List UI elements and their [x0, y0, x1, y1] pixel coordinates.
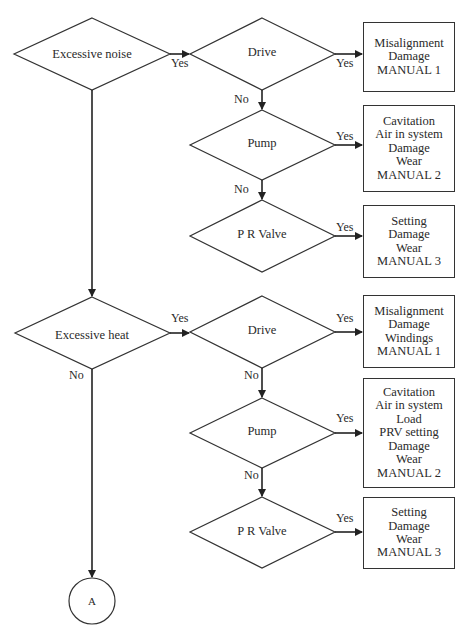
outcome-line: Damage [388, 318, 430, 331]
outcome-line: MANUAL 2 [377, 467, 441, 480]
edge-label-no: No [234, 93, 249, 106]
outcome-line: Load [396, 413, 422, 426]
edge-label-yes: Yes [336, 57, 353, 70]
edge-label-yes: Yes [336, 512, 353, 525]
edge-label-no: No [69, 369, 84, 382]
outcome-line: Damage [388, 440, 430, 453]
decision-label-drive-2: Drive [248, 323, 276, 338]
decision-label-pump-2: Pump [247, 424, 276, 439]
outcome-box-2: Cavitation Air in system Damage Wear MAN… [363, 105, 455, 192]
outcome-line: Cavitation [383, 386, 435, 399]
edge-label-yes: Yes [171, 57, 188, 70]
edge-label-no: No [244, 369, 259, 382]
edge-label-no: No [234, 183, 249, 196]
outcome-line: MANUAL 1 [377, 64, 441, 77]
outcome-box-4: Misalignment Damage Windings MANUAL 1 [363, 295, 455, 368]
outcome-line: Setting [391, 215, 426, 228]
outcome-line: MANUAL 3 [377, 255, 441, 268]
outcome-line: Cavitation [383, 115, 435, 128]
outcome-line: Misalignment [374, 37, 443, 50]
outcome-line: Wear [396, 155, 422, 168]
outcome-box-6: Setting Damage Wear MANUAL 3 [363, 497, 455, 569]
outcome-line: MANUAL 2 [377, 169, 441, 182]
decision-label-excessive-heat: Excessive heat [55, 328, 129, 343]
outcome-line: MANUAL 1 [377, 345, 441, 358]
outcome-line: Misalignment [374, 305, 443, 318]
outcome-line: MANUAL 3 [377, 546, 441, 559]
connector-label: A [88, 595, 96, 607]
edge-label-no: No [244, 469, 259, 482]
outcome-line: Wear [396, 242, 422, 255]
decision-label-prv-2: P R Valve [237, 524, 286, 539]
outcome-line: Setting [391, 506, 426, 519]
outcome-line: Windings [385, 332, 433, 345]
decision-label-pump-1: Pump [247, 136, 276, 151]
edge-label-yes: Yes [336, 221, 353, 234]
outcome-line: Air in system [375, 128, 442, 141]
edge-label-yes: Yes [336, 412, 353, 425]
outcome-line: Air in system [375, 399, 442, 412]
outcome-line: Damage [388, 228, 430, 241]
edge-label-yes: Yes [336, 312, 353, 325]
outcome-line: Damage [388, 50, 430, 63]
outcome-box-3: Setting Damage Wear MANUAL 3 [363, 205, 455, 278]
outcome-box-1: Misalignment Damage MANUAL 1 [363, 22, 455, 92]
edge-label-yes: Yes [171, 312, 188, 325]
decision-label-excessive-noise: Excessive noise [52, 47, 132, 62]
outcome-line: PRV setting [379, 426, 439, 439]
decision-label-prv-1: P R Valve [237, 227, 286, 242]
edge-label-yes: Yes [336, 130, 353, 143]
outcome-line: Damage [388, 520, 430, 533]
outcome-line: Wear [396, 453, 422, 466]
outcome-line: Damage [388, 142, 430, 155]
decision-label-drive-1: Drive [248, 45, 276, 60]
outcome-line: Wear [396, 533, 422, 546]
outcome-box-5: Cavitation Air in system Load PRV settin… [363, 378, 455, 488]
